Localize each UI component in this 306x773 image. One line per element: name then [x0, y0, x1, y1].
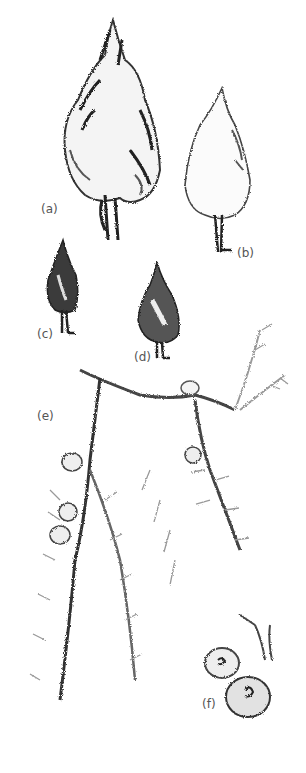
- label-b: (b): [237, 246, 254, 260]
- botanical-illustration: [0, 0, 306, 773]
- label-e: (e): [37, 409, 54, 423]
- tree-d-drawing: [138, 262, 179, 358]
- label-c: (c): [37, 327, 53, 341]
- label-a: (a): [41, 202, 58, 216]
- label-f: (f): [202, 697, 216, 711]
- label-d: (d): [134, 350, 151, 364]
- tree-a-drawing: [65, 20, 160, 240]
- tree-c-drawing: [47, 240, 77, 333]
- tree-b-drawing: [185, 88, 250, 252]
- foliage-branch-e-drawing: [30, 324, 288, 700]
